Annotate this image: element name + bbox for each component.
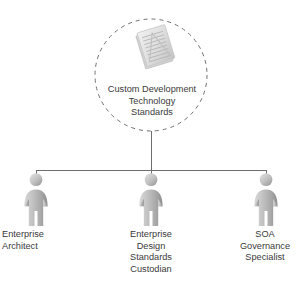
person-icon-soa-governance-specialist: [254, 173, 277, 226]
document-stack-icon: [135, 25, 176, 70]
org-chart-diagram: Custom Development Technology Standards …: [0, 0, 302, 285]
person-icon-enterprise-design-standards-custodian: [139, 173, 162, 226]
person-icon-enterprise-architect: [24, 173, 47, 226]
role-label-enterprise-design-standards-custodian: Enterprise Design Standards Custodian: [111, 229, 191, 275]
role-label-soa-governance-specialist: SOA Governance Specialist: [225, 229, 302, 264]
central-node-label: Custom Development Technology Standards: [84, 84, 220, 119]
role-label-enterprise-architect: Enterprise Architect: [2, 229, 82, 252]
connector-lines: [36, 131, 266, 178]
